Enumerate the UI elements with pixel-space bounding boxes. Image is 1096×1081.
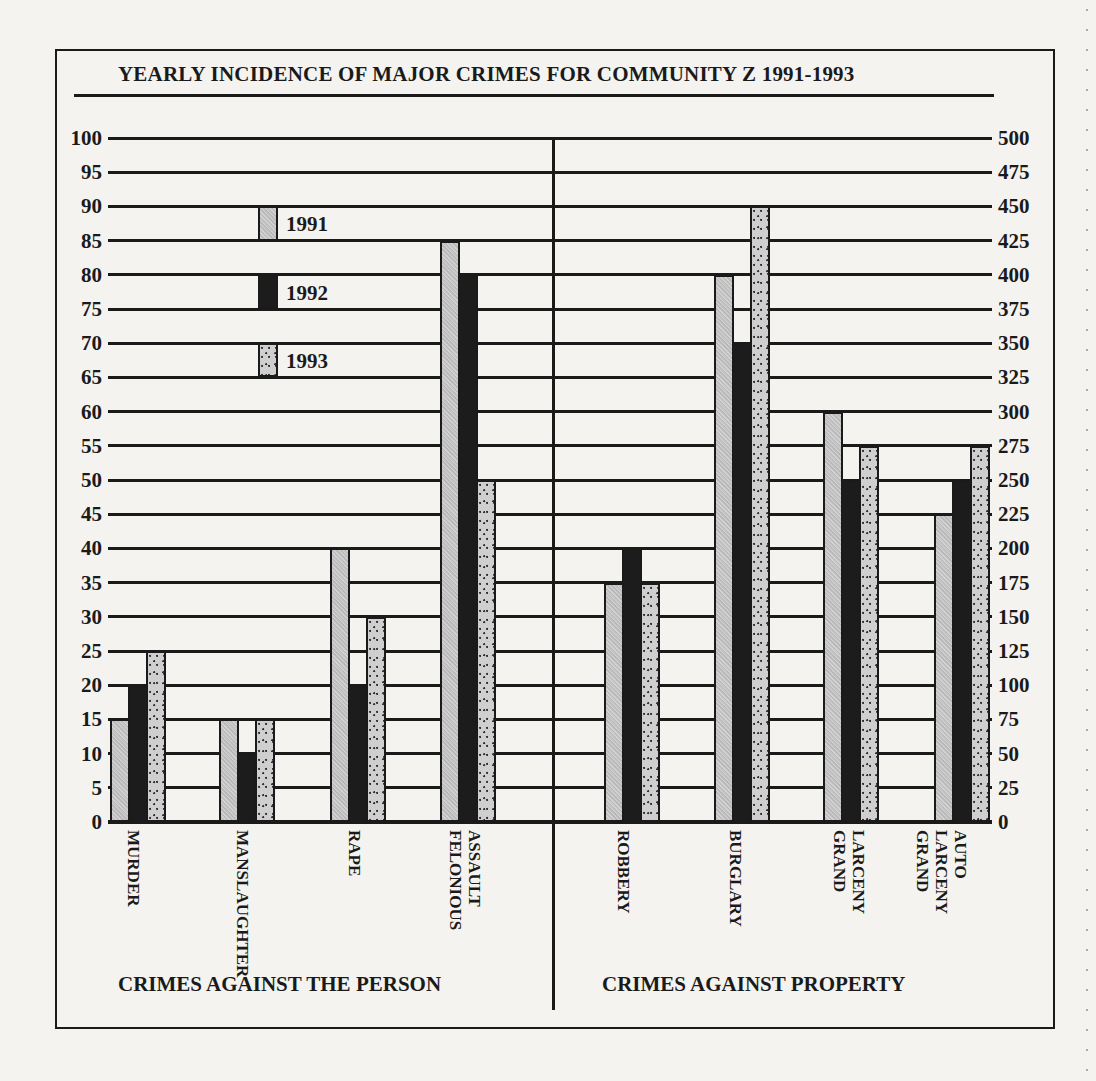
group-label-person: CRIMES AGAINST THE PERSON <box>118 972 441 997</box>
right-axis-tick: 425 <box>998 231 1058 251</box>
left-axis-tick: 40 <box>52 538 102 558</box>
gridline <box>108 171 992 174</box>
legend-label-1991: 1991 <box>282 213 332 235</box>
bar-1991 <box>934 514 954 822</box>
left-axis-tick: 95 <box>52 162 102 182</box>
right-axis-tick: 350 <box>998 333 1058 353</box>
right-axis-tick: 300 <box>998 402 1058 422</box>
left-axis-tick: 70 <box>52 333 102 353</box>
right-axis-tick: 225 <box>998 504 1058 524</box>
x-axis-baseline <box>108 820 992 824</box>
bar-1991 <box>604 583 624 822</box>
gridline <box>108 376 992 379</box>
right-axis-tick: 200 <box>998 538 1058 558</box>
right-axis-tick: 275 <box>998 436 1058 456</box>
gridline <box>108 273 992 276</box>
gridline <box>108 137 992 140</box>
legend-swatch-1991 <box>258 206 278 240</box>
bar-1992 <box>128 685 148 822</box>
bar-1992 <box>952 480 972 822</box>
right-axis-tick: 175 <box>998 573 1058 593</box>
right-axis-tick: 50 <box>998 744 1058 764</box>
gridline <box>108 308 992 311</box>
left-axis-tick: 30 <box>52 607 102 627</box>
right-axis-tick: 450 <box>998 196 1058 216</box>
left-axis-tick: 55 <box>52 436 102 456</box>
gridline <box>108 239 992 242</box>
left-axis-tick: 60 <box>52 402 102 422</box>
left-axis-tick: 50 <box>52 470 102 490</box>
right-axis-tick: 250 <box>998 470 1058 490</box>
bar-1992 <box>237 754 257 822</box>
right-axis-tick: 475 <box>998 162 1058 182</box>
bar-1991 <box>714 275 734 822</box>
category-label: MANSLAUGHTER <box>233 830 252 977</box>
right-axis-tick: 375 <box>998 299 1058 319</box>
bar-1993 <box>476 480 496 822</box>
bar-1993 <box>255 719 275 822</box>
left-axis-tick: 80 <box>52 265 102 285</box>
category-label: ASSAULTFELONIOUS <box>446 830 484 930</box>
left-axis-tick: 35 <box>52 573 102 593</box>
left-axis-tick: 75 <box>52 299 102 319</box>
bar-1991 <box>440 241 460 822</box>
group-label-property: CRIMES AGAINST PROPERTY <box>602 972 905 997</box>
left-axis-tick: 20 <box>52 675 102 695</box>
left-axis-tick: 45 <box>52 504 102 524</box>
bar-1991 <box>110 719 130 822</box>
right-axis-tick: 325 <box>998 367 1058 387</box>
group-divider <box>552 140 555 1010</box>
left-axis-tick: 0 <box>52 812 102 832</box>
bar-1993 <box>970 446 990 822</box>
bar-1992 <box>348 685 368 822</box>
legend-label-1992: 1992 <box>282 282 332 304</box>
bar-1993 <box>859 446 879 822</box>
right-axis-tick: 25 <box>998 778 1058 798</box>
gridline <box>108 342 992 345</box>
left-axis-tick: 65 <box>52 367 102 387</box>
category-label: RAPE <box>345 830 364 876</box>
title-rule <box>74 94 994 97</box>
bar-1992 <box>622 548 642 822</box>
right-axis-tick: 0 <box>998 812 1058 832</box>
bar-1993 <box>146 651 166 822</box>
category-label: AUTOLARCENYGRAND <box>913 830 970 914</box>
right-axis-tick: 75 <box>998 709 1058 729</box>
bar-1993 <box>750 206 770 822</box>
legend-label-1993: 1993 <box>282 350 332 372</box>
right-axis-tick: 500 <box>998 128 1058 148</box>
category-label: LARCENYGRAND <box>830 830 868 914</box>
left-axis-tick: 10 <box>52 744 102 764</box>
category-label: ROBBERY <box>614 830 633 913</box>
right-axis-tick: 150 <box>998 607 1058 627</box>
left-axis-tick: 25 <box>52 641 102 661</box>
left-axis-tick: 15 <box>52 709 102 729</box>
bar-1991 <box>823 412 843 822</box>
bar-1993 <box>366 617 386 822</box>
left-axis-tick: 100 <box>52 128 102 148</box>
left-axis-tick: 90 <box>52 196 102 216</box>
left-axis-tick: 85 <box>52 231 102 251</box>
left-axis-tick: 5 <box>52 778 102 798</box>
chart-title: YEARLY INCIDENCE OF MAJOR CRIMES FOR COM… <box>118 62 855 87</box>
gridline <box>108 205 992 208</box>
gridline <box>108 410 992 413</box>
legend-swatch-1993 <box>258 343 278 377</box>
bar-1992 <box>458 275 478 822</box>
right-axis-tick: 100 <box>998 675 1058 695</box>
bar-1991 <box>219 719 239 822</box>
right-axis-tick: 400 <box>998 265 1058 285</box>
right-axis-tick: 125 <box>998 641 1058 661</box>
category-label: MURDER <box>124 830 143 907</box>
bar-1992 <box>841 480 861 822</box>
page-edge-dots <box>1084 0 1090 1081</box>
category-label: BURGLARY <box>726 830 745 927</box>
bar-1992 <box>732 343 752 822</box>
legend-swatch-1992 <box>258 275 278 309</box>
chart-frame <box>55 49 1055 1029</box>
bar-1991 <box>330 548 350 822</box>
bar-1993 <box>640 583 660 822</box>
